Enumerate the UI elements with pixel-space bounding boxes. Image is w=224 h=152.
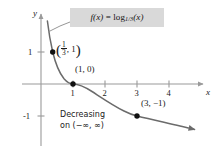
equation-log: log xyxy=(113,12,125,22)
equation-text: f(x) = log1/3(x) xyxy=(90,12,143,22)
x-tick-label-3: 3 xyxy=(135,89,139,98)
decreasing-line-1: Decreasing xyxy=(60,110,105,121)
x-tick-label-1: 1 xyxy=(71,89,75,98)
x-tick-label-4: 4 xyxy=(167,89,171,98)
callout-leader-line xyxy=(48,22,70,32)
y-tick-label-1: 1 xyxy=(28,48,32,57)
y-tick-label-neg1: -1 xyxy=(23,112,30,121)
point-one-third-one xyxy=(50,49,55,54)
point-label-y-value: , 1 xyxy=(67,45,76,54)
fraction-numerator: 1 xyxy=(61,41,67,49)
x-tick-label-2: 2 xyxy=(103,89,107,98)
log-function-figure: f(x) = log1/3(x) y x 1 2 3 4 1 -1 ( 1 3 … xyxy=(0,0,224,152)
x-axis-label: x xyxy=(206,88,210,97)
point-one-zero xyxy=(70,81,75,86)
point-three-negative-one xyxy=(134,113,139,118)
equation-lhs: f(x) xyxy=(90,12,103,22)
equation-argument: (x) xyxy=(133,12,143,22)
decreasing-annotation: Decreasing on (−∞, ∞) xyxy=(60,110,105,132)
fraction-denominator: 3 xyxy=(61,48,67,57)
decreasing-line-2: on (−∞, ∞) xyxy=(60,121,105,132)
point-label-three-negative-one: (3, −1) xyxy=(141,99,166,108)
point-label-one-third: ( 1 3 , 1 ) xyxy=(56,41,81,57)
equation-equals: = xyxy=(103,12,113,22)
y-axis-label: y xyxy=(33,9,37,18)
fraction-one-third: 1 3 xyxy=(61,41,67,57)
equation-callout-box: f(x) = log1/3(x) xyxy=(70,8,164,27)
point-label-one-zero: (1, 0) xyxy=(75,65,95,74)
